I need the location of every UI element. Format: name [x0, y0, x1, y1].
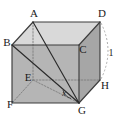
vertex-label-E: E: [25, 71, 32, 83]
vertex-label-B: B: [3, 36, 10, 48]
angle-label-x: x: [61, 89, 66, 98]
dimension-label-1: 1: [109, 47, 114, 58]
cube-diagram-svg: A B C D E F G H x 1: [0, 0, 119, 120]
vertex-label-H: H: [101, 79, 109, 91]
dimension-arc-path: [101, 23, 108, 79]
vertex-label-A: A: [30, 7, 38, 19]
vertex-label-F: F: [7, 98, 13, 110]
cube-diagram-figure: A B C D E F G H x 1: [0, 0, 119, 120]
vertex-label-D: D: [98, 7, 106, 19]
dimension-arc-DH: [101, 23, 108, 79]
vertex-label-C: C: [79, 43, 86, 55]
vertex-label-G: G: [78, 104, 86, 116]
